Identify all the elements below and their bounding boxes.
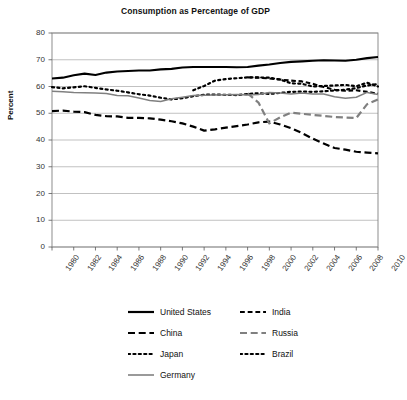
y-tick-label: 10 [19, 216, 45, 224]
legend-line-swatch [240, 328, 266, 338]
y-tick-label: 60 [19, 83, 45, 91]
legend-item-russia[interactable]: Russia [240, 323, 298, 343]
series-line-germany [52, 91, 378, 101]
legend-line-swatch [240, 349, 266, 359]
legend-label: United States [160, 307, 211, 317]
legend-line-swatch [128, 307, 154, 317]
legend-label: Germany [160, 370, 195, 380]
y-tick-label: 30 [19, 163, 45, 171]
legend-line-swatch [128, 328, 154, 338]
chart-legend: United StatesIndiaChinaRussiaJapanBrazil… [0, 302, 391, 388]
legend-row: Germany [0, 365, 391, 385]
y-tick-label: 20 [19, 190, 45, 198]
legend-line-swatch [240, 307, 266, 317]
legend-item-japan[interactable]: Japan [128, 344, 183, 364]
y-tick-label: 0 [19, 243, 45, 251]
data-series-group [52, 57, 378, 153]
legend-item-india[interactable]: India [240, 302, 290, 322]
legend-row: JapanBrazil [0, 344, 391, 364]
series-line-russia [248, 93, 378, 123]
gridlines [52, 33, 378, 247]
legend-label: Japan [160, 349, 183, 359]
legend-item-germany[interactable]: Germany [128, 365, 195, 385]
series-line-united-states [52, 57, 378, 78]
legend-line-swatch [128, 370, 154, 380]
legend-label: Russia [272, 328, 298, 338]
y-axis-title: Percent [6, 91, 15, 120]
legend-item-china[interactable]: China [128, 323, 182, 343]
y-tick-label: 80 [19, 29, 45, 37]
legend-row: ChinaRussia [0, 323, 391, 343]
legend-line-swatch [128, 349, 154, 359]
y-tick-label: 40 [19, 136, 45, 144]
legend-item-brazil[interactable]: Brazil [240, 344, 293, 364]
legend-row: United StatesIndia [0, 302, 391, 322]
legend-label: India [272, 307, 290, 317]
y-tick-label: 70 [19, 56, 45, 64]
legend-item-united-states[interactable]: United States [128, 302, 211, 322]
x-tick-marks [52, 247, 378, 251]
plot-area: Percent 01020304050607080 19801982198419… [0, 0, 391, 300]
x-tick-label: 2010 [390, 253, 407, 273]
y-tick-label: 50 [19, 109, 45, 117]
legend-label: Brazil [272, 349, 293, 359]
y-tick-marks [49, 33, 53, 247]
legend-label: China [160, 328, 182, 338]
